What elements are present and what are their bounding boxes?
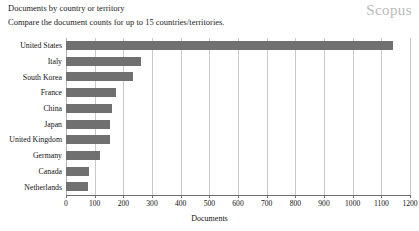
y-tick-label: Germany bbox=[33, 151, 62, 160]
y-axis-label-wrap: China bbox=[0, 104, 62, 113]
bar[interactable] bbox=[66, 88, 116, 97]
x-tick-mark bbox=[209, 195, 210, 198]
bar[interactable] bbox=[66, 120, 110, 129]
y-tick-label: China bbox=[43, 104, 62, 113]
y-tick-label: Italy bbox=[48, 57, 62, 66]
y-tick-label: France bbox=[41, 88, 62, 97]
bar[interactable] bbox=[66, 182, 88, 191]
y-axis-label-wrap: Germany bbox=[0, 151, 62, 160]
bar-row[interactable] bbox=[66, 54, 410, 69]
y-axis-label-wrap: Netherlands bbox=[0, 183, 62, 192]
x-tick-mark bbox=[123, 195, 124, 198]
bar-row[interactable] bbox=[66, 69, 410, 84]
bar[interactable] bbox=[66, 135, 110, 144]
y-tick-label: Japan bbox=[44, 120, 62, 129]
y-axis-label-wrap: Canada bbox=[0, 167, 62, 176]
x-tick-mark bbox=[324, 195, 325, 198]
x-tick-label: 1200 bbox=[402, 199, 417, 208]
x-tick-label: 0 bbox=[64, 199, 68, 208]
y-axis-label-wrap: South Korea bbox=[0, 73, 62, 82]
y-axis-label-wrap: Italy bbox=[0, 57, 62, 66]
x-gridline bbox=[410, 38, 411, 195]
y-axis-label-wrap: United Kingdom bbox=[0, 135, 62, 144]
x-tick-label: 200 bbox=[118, 199, 129, 208]
x-tick-mark bbox=[66, 195, 67, 198]
bar-row[interactable] bbox=[66, 179, 410, 194]
x-axis-title: Documents bbox=[0, 214, 419, 224]
bar[interactable] bbox=[66, 72, 133, 81]
x-tick-mark bbox=[381, 195, 382, 198]
x-tick-label: 1000 bbox=[345, 199, 360, 208]
bar-chart: Documents 010020030040050060070080090010… bbox=[0, 0, 419, 231]
x-tick-label: 400 bbox=[175, 199, 186, 208]
x-tick-mark bbox=[353, 195, 354, 198]
y-tick-label: Canada bbox=[39, 167, 62, 176]
bar[interactable] bbox=[66, 57, 141, 66]
x-tick-mark bbox=[267, 195, 268, 198]
x-tick-mark bbox=[152, 195, 153, 198]
y-tick-label: United Kingdom bbox=[9, 135, 62, 144]
bar[interactable] bbox=[66, 104, 112, 113]
x-tick-label: 900 bbox=[318, 199, 329, 208]
x-tick-label: 300 bbox=[146, 199, 157, 208]
bar-row[interactable] bbox=[66, 164, 410, 179]
x-tick-label: 500 bbox=[204, 199, 215, 208]
x-tick-mark bbox=[238, 195, 239, 198]
x-tick-label: 700 bbox=[261, 199, 272, 208]
bar-row[interactable] bbox=[66, 38, 410, 53]
scopus-chart-panel: Documents by country or territory Compar… bbox=[0, 0, 419, 231]
bar[interactable] bbox=[66, 167, 89, 176]
x-tick-label: 1100 bbox=[374, 199, 389, 208]
x-tick-label: 800 bbox=[290, 199, 301, 208]
y-tick-label: South Korea bbox=[23, 73, 62, 82]
x-tick-mark bbox=[95, 195, 96, 198]
bar-row[interactable] bbox=[66, 148, 410, 163]
x-tick-mark bbox=[181, 195, 182, 198]
x-tick-mark bbox=[295, 195, 296, 198]
y-axis-label-wrap: Japan bbox=[0, 120, 62, 129]
bar-row[interactable] bbox=[66, 85, 410, 100]
y-tick-label: Netherlands bbox=[24, 183, 62, 192]
bar[interactable] bbox=[66, 151, 100, 160]
y-axis-label-wrap: France bbox=[0, 88, 62, 97]
bar-row[interactable] bbox=[66, 117, 410, 132]
bar-row[interactable] bbox=[66, 132, 410, 147]
x-tick-mark bbox=[410, 195, 411, 198]
y-tick-label: United States bbox=[20, 41, 62, 50]
y-axis-label-wrap: United States bbox=[0, 41, 62, 50]
x-tick-label: 100 bbox=[89, 199, 100, 208]
bar[interactable] bbox=[66, 41, 393, 50]
x-tick-label: 600 bbox=[232, 199, 243, 208]
bar-row[interactable] bbox=[66, 101, 410, 116]
